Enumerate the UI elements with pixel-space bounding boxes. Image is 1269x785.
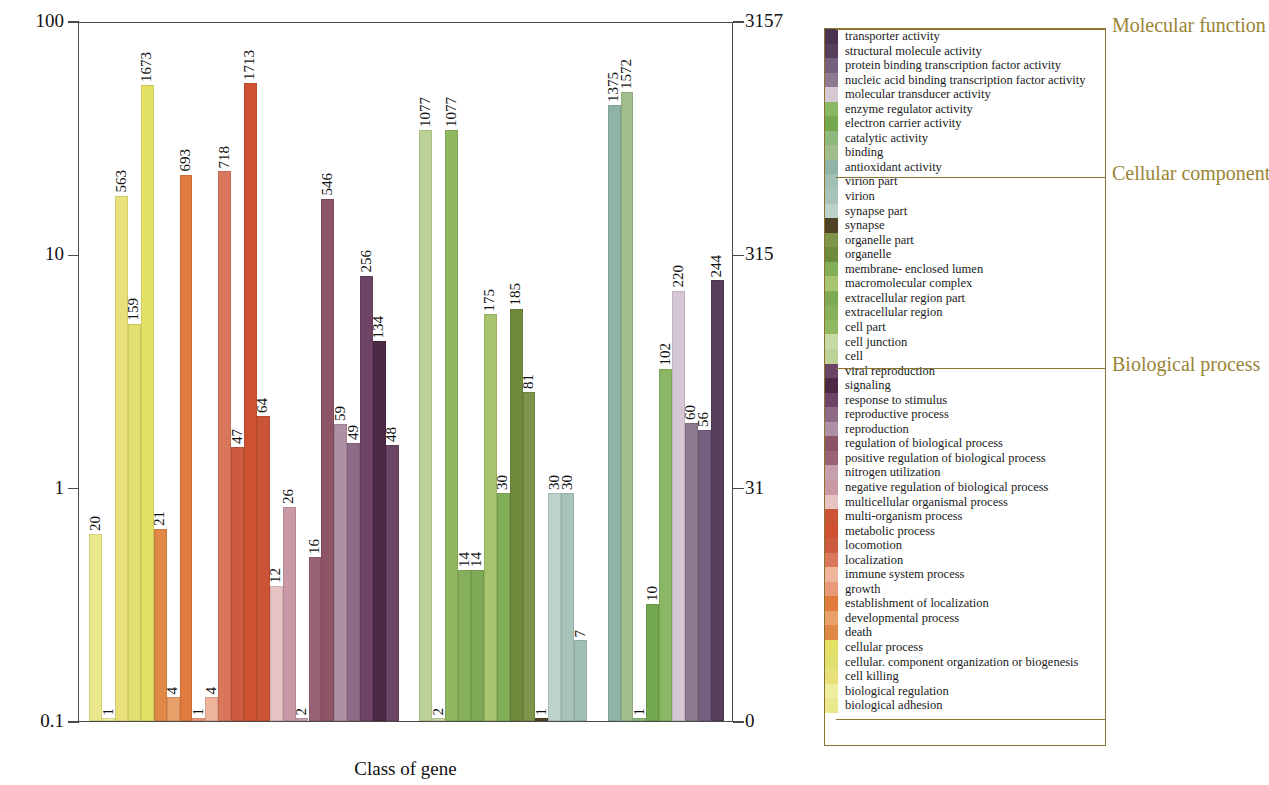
- legend-item[interactable]: macromolecular complex: [825, 276, 1105, 291]
- legend-item[interactable]: cell: [825, 349, 1105, 364]
- legend-item[interactable]: reproduction: [825, 422, 1105, 437]
- bar: [672, 291, 685, 721]
- legend-item[interactable]: cell killing: [825, 669, 1105, 684]
- bar-value-label: 4: [204, 687, 219, 695]
- legend-item[interactable]: negative regulation of biological proces…: [825, 480, 1105, 495]
- legend-item[interactable]: antioxidant activity: [825, 160, 1105, 175]
- bar: [535, 718, 548, 721]
- legend-item-label: positive regulation of biological proces…: [838, 452, 1046, 465]
- legend-item[interactable]: extracellular region: [825, 305, 1105, 320]
- legend-group-rule: [836, 368, 1105, 369]
- chart-area: Percent of genes(%) Number of genes(#) C…: [0, 0, 800, 785]
- legend-item[interactable]: regulation of biological process: [825, 436, 1105, 451]
- legend-item[interactable]: growth: [825, 582, 1105, 597]
- legend-item-label: cell junction: [838, 336, 907, 349]
- bar-value-label: 134: [371, 316, 386, 339]
- legend-color-swatch: [825, 29, 838, 44]
- legend-color-swatch: [825, 640, 838, 655]
- legend-color-swatch: [825, 422, 838, 437]
- legend-item-label: immune system process: [838, 568, 964, 581]
- bar: [608, 105, 621, 721]
- legend-item-label: biological regulation: [838, 685, 949, 698]
- legend-item[interactable]: binding: [825, 145, 1105, 160]
- legend-item[interactable]: organelle part: [825, 233, 1105, 248]
- legend-item[interactable]: virion: [825, 189, 1105, 204]
- bar: [633, 718, 646, 721]
- legend-item[interactable]: transporter activity: [825, 29, 1105, 44]
- legend-item-label: viral reproduction: [838, 365, 935, 378]
- legend-item[interactable]: multicellular organismal process: [825, 495, 1105, 510]
- bar-value-label: 20: [88, 516, 103, 531]
- legend-item-label: cell killing: [838, 670, 899, 683]
- legend-color-swatch: [825, 596, 838, 611]
- legend-color-swatch: [825, 87, 838, 102]
- bar: [115, 196, 128, 721]
- legend-item[interactable]: immune system process: [825, 567, 1105, 582]
- legend-item[interactable]: cell part: [825, 320, 1105, 335]
- legend-color-swatch: [825, 611, 838, 626]
- legend-color-swatch: [825, 145, 838, 160]
- legend-item[interactable]: molecular transducer activity: [825, 87, 1105, 102]
- legend-item[interactable]: membrane- enclosed lumen: [825, 262, 1105, 277]
- bar-value-label: 718: [217, 146, 232, 169]
- legend-item[interactable]: nitrogen utilization: [825, 465, 1105, 480]
- legend-color-swatch: [825, 567, 838, 582]
- legend-item[interactable]: protein binding transcription factor act…: [825, 58, 1105, 73]
- bar-value-label: 185: [508, 283, 523, 306]
- y-tick-left: 10: [8, 243, 64, 265]
- legend-item[interactable]: multi-organism process: [825, 509, 1105, 524]
- bar-value-label: 102: [658, 343, 673, 366]
- legend-item[interactable]: organelle: [825, 247, 1105, 262]
- legend-item-label: cellular process: [838, 641, 923, 654]
- bar-value-label: 4: [165, 687, 180, 695]
- legend-item[interactable]: developmental process: [825, 611, 1105, 626]
- bar: [180, 175, 193, 721]
- legend-item[interactable]: synapse: [825, 218, 1105, 233]
- legend-item-label: binding: [838, 146, 883, 159]
- legend-item-label: cellular. component organization or biog…: [838, 656, 1078, 669]
- legend-item-label: protein binding transcription factor act…: [838, 59, 1061, 72]
- legend-groups: transporter activitystructural molecule …: [825, 29, 1105, 713]
- legend-item-label: nitrogen utilization: [838, 466, 940, 479]
- legend-item[interactable]: cellular. component organization or biog…: [825, 655, 1105, 670]
- legend-color-swatch: [825, 102, 838, 117]
- legend-item[interactable]: positive regulation of biological proces…: [825, 451, 1105, 466]
- legend-item[interactable]: locomotion: [825, 538, 1105, 553]
- legend-color-swatch: [825, 44, 838, 59]
- bar-value-label: 1: [101, 708, 116, 716]
- legend-item[interactable]: metabolic process: [825, 524, 1105, 539]
- legend-item[interactable]: extracellular region part: [825, 291, 1105, 306]
- legend-item[interactable]: biological adhesion: [825, 698, 1105, 713]
- legend-item[interactable]: signaling: [825, 378, 1105, 393]
- legend-item[interactable]: catalytic activity: [825, 131, 1105, 146]
- bar: [347, 443, 360, 721]
- legend-item[interactable]: nucleic acid binding transcription facto…: [825, 73, 1105, 88]
- legend-item[interactable]: response to stimulus: [825, 393, 1105, 408]
- legend-item-label: electron carrier activity: [838, 117, 962, 130]
- legend-item-label: reproduction: [838, 423, 909, 436]
- legend-item[interactable]: death: [825, 625, 1105, 640]
- legend-item[interactable]: enzyme regulator activity: [825, 102, 1105, 117]
- legend-color-swatch: [825, 480, 838, 495]
- legend-item[interactable]: viral reproduction: [825, 364, 1105, 379]
- legend-bottom-rule: [836, 719, 1105, 720]
- bar-value-label: 81: [521, 374, 536, 389]
- tick-mark-right: [733, 721, 744, 723]
- legend-item[interactable]: localization: [825, 553, 1105, 568]
- legend-item[interactable]: cell junction: [825, 334, 1105, 349]
- legend-item[interactable]: biological regulation: [825, 684, 1105, 699]
- legend-item[interactable]: synapse part: [825, 204, 1105, 219]
- legend-group: viral reproductionsignalingresponse to s…: [825, 364, 1105, 713]
- legend-item[interactable]: electron carrier activity: [825, 116, 1105, 131]
- legend-item[interactable]: establishment of localization: [825, 596, 1105, 611]
- legend-item[interactable]: structural molecule activity: [825, 44, 1105, 59]
- bar: [646, 604, 659, 721]
- legend-item-label: death: [838, 626, 872, 639]
- bar-value-label: 1077: [418, 97, 433, 127]
- bar-value-label: 12: [268, 568, 283, 583]
- legend-color-swatch: [825, 698, 838, 713]
- legend-item[interactable]: cellular process: [825, 640, 1105, 655]
- bar: [419, 130, 432, 721]
- legend-group-heading: Cellular component: [1112, 162, 1269, 185]
- legend-item[interactable]: reproductive process: [825, 407, 1105, 422]
